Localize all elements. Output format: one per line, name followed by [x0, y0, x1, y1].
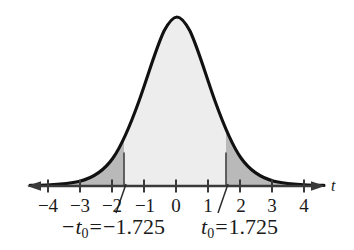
axis-arrow-left-icon [27, 181, 41, 190]
left-critical-sign: − [61, 214, 75, 239]
left-critical-number: −1.725 [103, 214, 165, 239]
axis-tick-label-4: 4 [289, 196, 319, 215]
right-critical-number: 1.725 [229, 214, 279, 239]
density-shaded-areas [30, 17, 324, 186]
axis-tick-label--2: −2 [97, 196, 127, 215]
right-critical-value-label: t0=1.725 [201, 216, 278, 241]
axis-tick-label--4: −4 [33, 196, 63, 215]
axis-arrow-right-icon [311, 181, 325, 190]
t-distribution-figure: −4 −3 −2 −1 0 1 2 3 4 t −t0=−1.725 t0=1.… [0, 0, 354, 250]
axis-tick-label-0: 0 [161, 196, 191, 215]
left-critical-equals: = [89, 214, 103, 239]
axis-tick-label-1: 1 [193, 196, 223, 215]
axis-variable-label-t: t [331, 178, 335, 194]
body-acceptance-region [30, 17, 324, 186]
axis-tick-label--1: −1 [130, 196, 160, 215]
left-critical-subscript: 0 [82, 226, 89, 241]
axis-tick-label-3: 3 [257, 196, 287, 215]
right-critical-equals: = [214, 214, 228, 239]
axis-tick-label-2: 2 [226, 196, 256, 215]
axis-tick-label--3: −3 [65, 196, 95, 215]
left-critical-value-label: −t0=−1.725 [61, 216, 165, 241]
